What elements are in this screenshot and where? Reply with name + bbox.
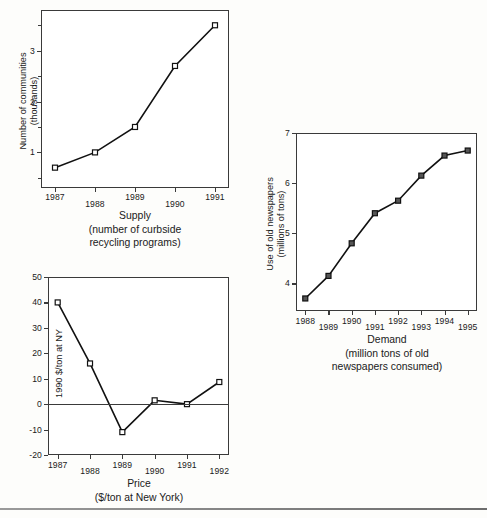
y-tick	[44, 455, 48, 456]
x-tick-label: 1992	[203, 466, 235, 476]
y-tick-label: 40	[16, 297, 42, 307]
y-tick-label: -20	[16, 450, 42, 460]
x-tick-label: 1987	[42, 460, 74, 470]
data-line	[58, 302, 220, 432]
y-tick	[44, 404, 48, 405]
x-tick-label: 1988	[74, 466, 106, 476]
y-tick	[44, 353, 48, 354]
y-tick-label: 50	[16, 272, 42, 282]
y-tick	[44, 379, 48, 380]
y-tick-label: 10	[16, 374, 42, 384]
x-tick	[219, 455, 220, 459]
footer-divider	[0, 508, 487, 510]
x-tick	[122, 455, 123, 459]
caption-price: Price ($/ton at New York)	[48, 477, 230, 504]
y-tick-label: 20	[16, 348, 42, 358]
x-tick-label: 1991	[171, 460, 203, 470]
x-tick-label: 1990	[139, 466, 171, 476]
x-tick-label: 1989	[106, 460, 138, 470]
y-tick-label: 0	[16, 399, 42, 409]
data-point-marker	[120, 430, 125, 435]
data-point-marker	[152, 398, 157, 403]
data-point-marker	[217, 380, 222, 385]
x-tick	[58, 455, 59, 459]
data-point-marker	[55, 300, 60, 305]
data-point-marker	[88, 361, 93, 366]
y-tick-label: -10	[16, 425, 42, 435]
series-line-price	[0, 0, 487, 518]
y-tick	[44, 328, 48, 329]
y-tick	[44, 277, 48, 278]
x-tick	[90, 455, 91, 459]
x-tick	[155, 455, 156, 459]
y-tick-label: 30	[16, 323, 42, 333]
y-tick	[44, 302, 48, 303]
x-tick	[187, 455, 188, 459]
y-tick	[44, 430, 48, 431]
zero-line	[48, 404, 229, 405]
